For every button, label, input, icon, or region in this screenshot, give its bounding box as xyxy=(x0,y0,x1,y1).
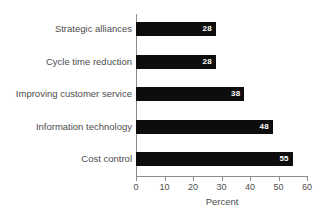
bar: 38 xyxy=(136,87,244,101)
bar-value-label: 55 xyxy=(279,155,288,163)
bar-row: Cost control55 xyxy=(136,152,307,166)
x-axis-tick-label: 20 xyxy=(181,181,205,193)
bar-value-label: 48 xyxy=(259,123,268,131)
category-label: Cycle time reduction xyxy=(0,55,132,69)
bar: 28 xyxy=(136,22,216,36)
bar: 48 xyxy=(136,120,273,134)
bar-row: Information technology48 xyxy=(136,120,307,134)
x-axis-tick-label: 0 xyxy=(124,181,148,193)
bar-value-label: 28 xyxy=(202,25,211,33)
category-label: Cost control xyxy=(0,152,132,166)
bar-value-label: 28 xyxy=(202,58,211,66)
plot-area: Strategic alliances28Cycle time reductio… xyxy=(136,16,307,176)
bar-row: Improving customer service38 xyxy=(136,87,307,101)
bar: 28 xyxy=(136,55,216,69)
category-label: Improving customer service xyxy=(0,87,132,101)
x-axis-title: Percent xyxy=(136,196,308,207)
bar: 55 xyxy=(136,152,293,166)
x-axis-tick-label: 40 xyxy=(238,181,262,193)
x-axis-tick-label: 10 xyxy=(153,181,177,193)
bar-value-label: 38 xyxy=(231,90,240,98)
x-axis-tick-label: 30 xyxy=(210,181,234,193)
x-axis-tick-label: 60 xyxy=(295,181,319,193)
bar-row: Cycle time reduction28 xyxy=(136,55,307,69)
bar-chart-figure: Strategic alliances28Cycle time reductio… xyxy=(0,0,326,221)
x-axis-tick-label: 50 xyxy=(267,181,291,193)
bar-row: Strategic alliances28 xyxy=(136,22,307,36)
category-label: Strategic alliances xyxy=(0,22,132,36)
category-label: Information technology xyxy=(0,120,132,134)
